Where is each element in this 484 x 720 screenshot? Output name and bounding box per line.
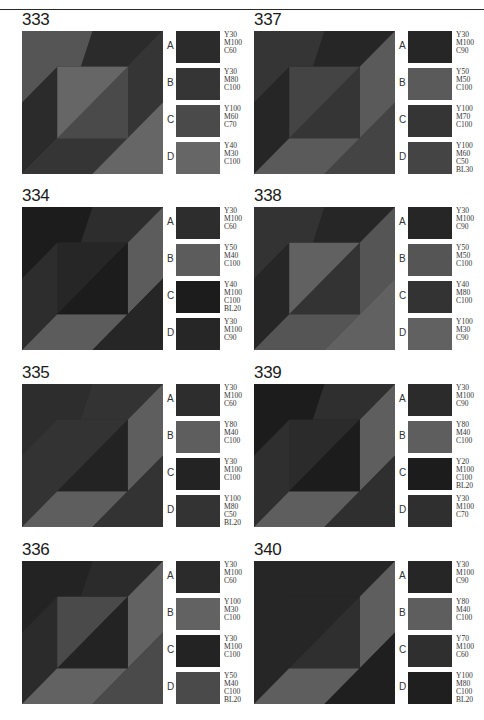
cmyk-code: Y30 M100 C60 <box>224 207 242 231</box>
panel-number: 333 <box>22 11 49 29</box>
swatch-row-b: BY50 M50 C100 <box>399 68 484 100</box>
swatch-row-d: DY30 M100 C90 <box>167 318 267 350</box>
cmyk-code: Y80 M40 C100 <box>456 421 472 445</box>
swatch-row-c: CY70 M100 C60 <box>399 635 484 667</box>
swatch-letter: A <box>167 216 174 227</box>
swatch-panel-335: 335AY30 M100 C60BY80 M40 C100CY30 M100 C… <box>22 364 262 540</box>
swatch-panel-340: 340AY30 M100 C90BY80 M40 C100CY70 M100 C… <box>254 541 484 717</box>
cmyk-code: Y100 M30 C90 <box>456 318 473 342</box>
swatch-row-b: BY30 M80 C100 <box>167 68 267 100</box>
cmyk-code: Y30 M100 C100 <box>224 458 242 482</box>
swatch-letter: D <box>167 151 174 162</box>
color-swatch <box>176 635 220 667</box>
color-swatch <box>408 142 452 174</box>
panel-number: 337 <box>254 11 281 29</box>
color-swatch <box>176 142 220 174</box>
pattern-square <box>254 561 395 704</box>
pattern-square <box>22 561 163 704</box>
color-swatch <box>408 31 452 63</box>
swatch-letter: A <box>399 393 406 404</box>
swatch-letter: C <box>399 644 406 655</box>
cmyk-code: Y50 M40 C100 BL20 <box>224 672 241 704</box>
swatch-letter: D <box>399 327 406 338</box>
color-swatch <box>176 384 220 416</box>
swatch-row-a: AY30 M100 C60 <box>167 384 267 416</box>
swatch-letter: D <box>399 151 406 162</box>
cmyk-code: Y40 M100 C100 BL20 <box>224 281 242 313</box>
color-swatch <box>176 561 220 593</box>
swatch-letter: A <box>167 393 174 404</box>
cmyk-code: Y30 M100 C90 <box>456 31 474 55</box>
swatch-row-b: BY100 M30 C100 <box>167 598 267 630</box>
swatch-row-b: BY50 M50 C100 <box>399 244 484 276</box>
color-swatch <box>176 207 220 239</box>
swatch-letter: A <box>167 570 174 581</box>
panel-number: 340 <box>254 541 281 559</box>
swatch-letter: C <box>399 467 406 478</box>
swatch-letter: C <box>399 290 406 301</box>
swatch-row-c: CY40 M80 C100 <box>399 281 484 313</box>
swatch-letter: D <box>399 681 406 692</box>
pattern-square <box>22 384 163 527</box>
panel-number: 335 <box>22 364 49 382</box>
cmyk-code: Y30 M100 C60 <box>224 31 242 55</box>
swatch-row-d: DY50 M40 C100 BL20 <box>167 672 267 704</box>
color-swatch <box>408 672 452 704</box>
cmyk-code: Y100 M80 C50 BL20 <box>224 495 241 527</box>
cmyk-code: Y50 M50 C100 <box>456 68 472 92</box>
swatch-row-b: BY80 M40 C100 <box>167 421 267 453</box>
pattern-square <box>254 384 395 527</box>
cmyk-code: Y30 M100 C90 <box>456 384 474 408</box>
swatch-panel-339: 339AY30 M100 C90BY80 M40 C100CY20 M100 C… <box>254 364 484 540</box>
swatch-row-a: AY30 M100 C90 <box>399 207 484 239</box>
swatch-letter: C <box>399 114 406 125</box>
swatch-letter: A <box>399 570 406 581</box>
swatch-row-a: AY30 M100 C60 <box>167 31 267 63</box>
color-swatch <box>408 598 452 630</box>
swatch-panel-337: 337AY30 M100 C90BY50 M50 C100CY100 M70 C… <box>254 11 484 187</box>
swatch-row-c: CY30 M100 C100 <box>167 458 267 490</box>
color-swatch <box>176 244 220 276</box>
swatch-row-b: BY50 M40 C100 <box>167 244 267 276</box>
swatch-letter: D <box>167 504 174 515</box>
swatch-row-c: CY40 M100 C100 BL20 <box>167 281 267 313</box>
cmyk-code: Y80 M40 C100 <box>456 598 472 622</box>
swatch-letter: C <box>167 290 174 301</box>
swatch-row-a: AY30 M100 C60 <box>167 207 267 239</box>
cmyk-code: Y50 M40 C100 <box>224 244 240 268</box>
pattern-square <box>254 207 395 350</box>
pattern-square <box>22 31 163 174</box>
swatch-row-c: CY100 M70 C100 <box>399 105 484 137</box>
cmyk-code: Y30 M100 C90 <box>456 561 474 585</box>
cmyk-code: Y100 M60 C70 <box>224 105 241 129</box>
swatch-row-b: BY80 M40 C100 <box>399 421 484 453</box>
color-swatch <box>176 68 220 100</box>
cmyk-code: Y40 M30 C100 <box>224 142 240 166</box>
cmyk-code: Y80 M40 C100 <box>224 421 240 445</box>
color-swatch <box>408 384 452 416</box>
top-rule <box>0 9 484 10</box>
swatch-row-b: BY80 M40 C100 <box>399 598 484 630</box>
cmyk-code: Y40 M80 C100 <box>456 281 472 305</box>
swatch-row-d: DY30 M100 C70 <box>399 495 484 527</box>
swatch-row-d: DY100 M80 C50 BL20 <box>167 495 267 527</box>
color-swatch <box>176 495 220 527</box>
swatch-letter: B <box>167 253 174 264</box>
color-swatch <box>408 635 452 667</box>
swatch-row-c: CY20 M100 C100 BL20 <box>399 458 484 490</box>
cmyk-code: Y30 M80 C100 <box>224 68 240 92</box>
cmyk-code: Y100 M70 C100 <box>456 105 473 129</box>
swatch-letter: B <box>399 430 406 441</box>
swatch-row-d: DY40 M30 C100 <box>167 142 267 174</box>
cmyk-code: Y30 M100 C60 <box>224 384 242 408</box>
cmyk-code: Y100 M60 C50 BL30 <box>456 142 473 174</box>
panel-number: 339 <box>254 364 281 382</box>
pattern-square <box>254 31 395 174</box>
color-swatch <box>176 281 220 313</box>
color-swatch <box>176 105 220 137</box>
swatch-row-a: AY30 M100 C60 <box>167 561 267 593</box>
panel-number: 338 <box>254 187 281 205</box>
swatch-letter: B <box>167 607 174 618</box>
cmyk-code: Y50 M50 C100 <box>456 244 472 268</box>
color-swatch <box>408 561 452 593</box>
